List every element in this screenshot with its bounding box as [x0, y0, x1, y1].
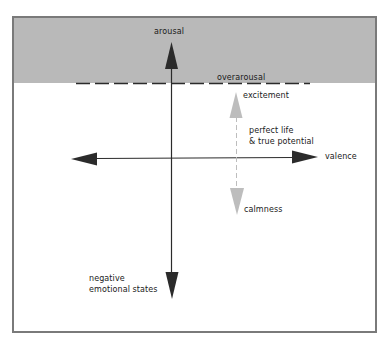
valence-axis-line — [95, 158, 294, 159]
negative-states-label-line2: emotional states — [89, 284, 158, 295]
calmness-label: calmness — [244, 204, 282, 215]
valence-left-arrowhead-icon — [71, 153, 97, 166]
valence-right-arrowhead-icon — [292, 151, 318, 164]
excitement-label: excitement — [243, 90, 289, 101]
perfect-life-label-line1: perfect life — [249, 125, 294, 136]
perfect-life-label-line2: & true potential — [249, 136, 314, 147]
negative-states-label-line1: negative — [89, 273, 125, 284]
calmness-arrowhead-icon — [230, 188, 244, 215]
valence-label: valence — [325, 151, 357, 162]
arousal-valence-diagram — [0, 0, 388, 345]
overarousal-label: overarousal — [217, 72, 265, 83]
excitement-arrowhead-icon — [230, 92, 243, 118]
arousal-down-arrowhead-icon — [166, 272, 179, 299]
arousal-label: arousal — [154, 26, 184, 37]
overarousal-zone — [13, 17, 375, 83]
